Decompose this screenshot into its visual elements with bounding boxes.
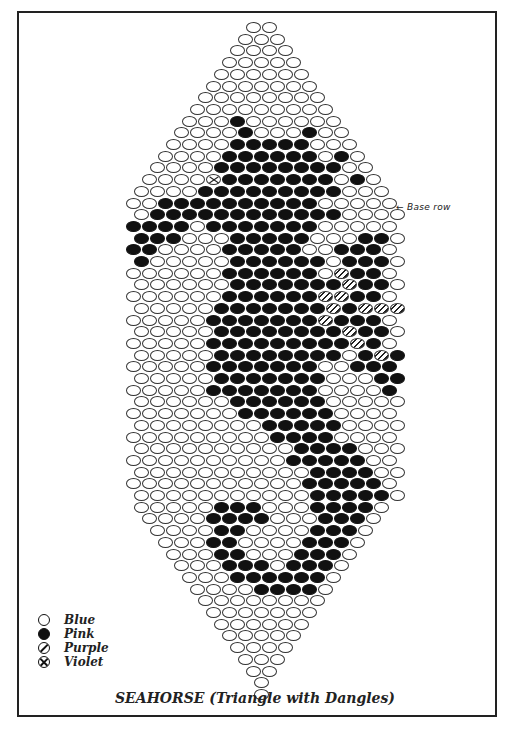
blue-bead xyxy=(142,268,157,279)
blue-bead xyxy=(190,432,205,443)
pink-bead xyxy=(270,174,285,185)
blue-bead xyxy=(150,279,165,290)
blue-bead xyxy=(182,490,197,501)
pink-bead xyxy=(302,291,317,302)
blue-bead xyxy=(286,104,301,115)
blue-bead xyxy=(342,373,357,384)
pink-bead xyxy=(342,525,357,536)
blue-bead xyxy=(142,315,157,326)
pink-bead xyxy=(366,315,381,326)
pink-bead xyxy=(334,338,349,349)
blue-bead xyxy=(342,549,357,560)
pink-bead xyxy=(278,396,293,407)
pink-bead xyxy=(294,373,309,384)
blue-bead xyxy=(134,420,149,431)
pink-bead xyxy=(358,326,373,337)
pink-bead xyxy=(254,513,269,524)
blue-bead xyxy=(198,572,213,583)
blue-bead xyxy=(134,303,149,314)
blue-bead xyxy=(318,244,333,255)
pink-bead xyxy=(278,162,293,173)
pink-bead xyxy=(206,513,221,524)
blue-bead xyxy=(206,81,221,92)
blue-bead xyxy=(334,560,349,571)
pink-bead xyxy=(278,279,293,290)
pink-bead xyxy=(374,326,389,337)
blue-bead xyxy=(198,420,213,431)
blue-bead xyxy=(334,361,349,372)
blue-bead xyxy=(166,139,181,150)
blue-bead xyxy=(366,221,381,232)
blue-bead xyxy=(206,478,221,489)
blue-bead xyxy=(262,45,277,56)
blue-bead xyxy=(214,420,229,431)
blue-bead xyxy=(126,408,141,419)
blue-bead xyxy=(278,525,293,536)
pink-bead xyxy=(254,174,269,185)
pink-bead xyxy=(318,560,333,571)
pink-bead xyxy=(214,373,229,384)
pink-bead xyxy=(270,584,285,595)
pink-bead xyxy=(222,221,237,232)
blue-bead xyxy=(334,127,349,138)
pink-bead xyxy=(334,537,349,548)
pink-bead xyxy=(310,162,325,173)
blue-bead xyxy=(254,104,269,115)
blue-bead xyxy=(286,81,301,92)
blue-bead xyxy=(126,338,141,349)
pink-bead xyxy=(310,186,325,197)
blue-bead xyxy=(206,127,221,138)
blue-bead xyxy=(158,361,173,372)
blue-bead xyxy=(326,233,341,244)
blue-bead xyxy=(158,268,173,279)
blue-bead xyxy=(254,432,269,443)
blue-bead xyxy=(270,127,285,138)
pink-bead xyxy=(310,256,325,267)
blue-bead xyxy=(230,92,245,103)
blue-bead xyxy=(366,513,381,524)
blue-bead xyxy=(390,256,405,267)
pink-bead xyxy=(262,279,277,290)
blue-bead xyxy=(254,34,269,45)
pink-bead xyxy=(310,209,325,220)
pink-bead xyxy=(286,361,301,372)
pink-bead xyxy=(214,162,229,173)
pink-bead xyxy=(342,303,357,314)
blue-bead xyxy=(342,209,357,220)
blue-bead xyxy=(318,385,333,396)
pink-bead xyxy=(358,502,373,513)
blue-bead xyxy=(198,92,213,103)
blue-bead xyxy=(134,502,149,513)
pink-bead xyxy=(246,139,261,150)
pink-bead xyxy=(246,303,261,314)
blue-bead xyxy=(374,443,389,454)
blue-bead xyxy=(246,116,261,127)
blue-bead xyxy=(342,139,357,150)
blue-bead xyxy=(270,630,285,641)
blue-bead xyxy=(366,432,381,443)
blue-bead xyxy=(390,396,405,407)
pink-bead xyxy=(230,373,245,384)
pink-bead xyxy=(342,256,357,267)
blue-bead xyxy=(142,361,157,372)
blue-bead xyxy=(174,268,189,279)
blue-bead xyxy=(214,572,229,583)
blue-bead xyxy=(214,619,229,630)
pink-bead xyxy=(222,537,237,548)
blue-bead xyxy=(182,256,197,267)
blue-bead xyxy=(150,256,165,267)
pink-bead xyxy=(142,221,157,232)
pink-bead xyxy=(342,467,357,478)
blue-bead xyxy=(382,432,397,443)
blue-bead xyxy=(150,162,165,173)
pink-bead xyxy=(342,490,357,501)
pink-bead xyxy=(246,209,261,220)
blue-bead xyxy=(142,385,157,396)
blue-bead xyxy=(174,338,189,349)
pink-bead xyxy=(222,315,237,326)
blue-bead xyxy=(238,607,253,618)
pink-bead xyxy=(302,315,317,326)
pink-bead xyxy=(350,315,365,326)
blue-bead xyxy=(222,630,237,641)
blue-bead xyxy=(198,162,213,173)
